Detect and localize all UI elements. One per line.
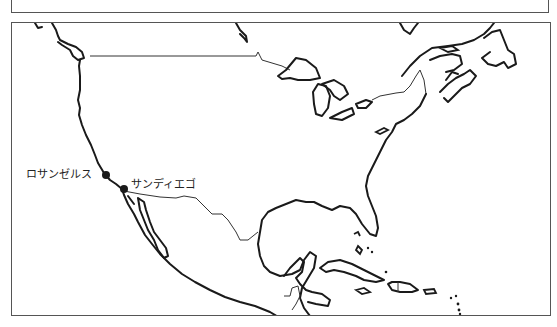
san-diego-marker [120,185,128,193]
los-angeles-marker [102,171,110,179]
north-america-map [0,0,557,327]
city-label-los-angeles: ロサンゼルス [26,169,92,180]
city-label-san-diego: サンディエゴ [131,179,196,190]
